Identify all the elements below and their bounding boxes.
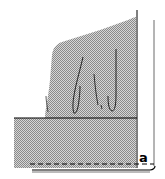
figure-label: a [139,152,151,164]
stippled-lower-block [14,118,136,168]
stippled-upper-region [45,17,136,118]
